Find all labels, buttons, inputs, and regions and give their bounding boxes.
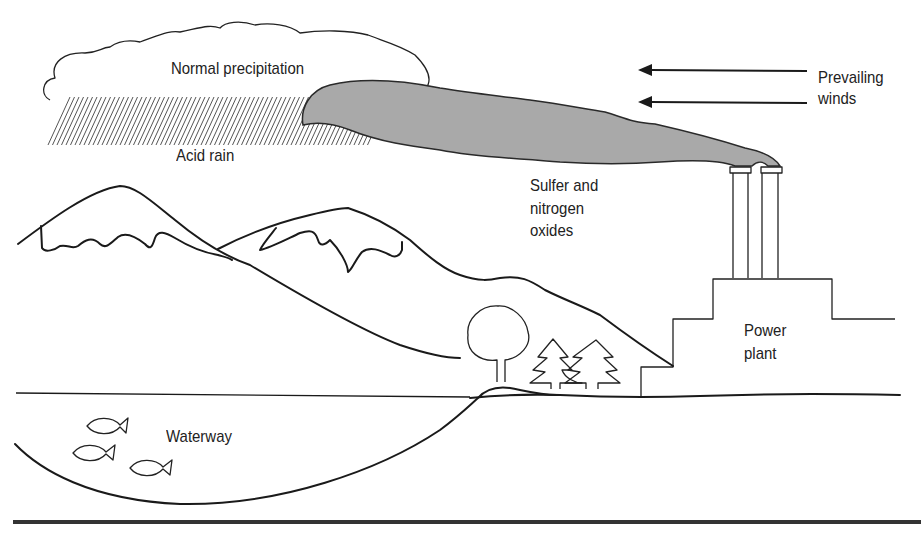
deciduous-tree-icon bbox=[468, 306, 529, 382]
power-plant-label-1: Power bbox=[744, 320, 786, 341]
normal-precipitation-label: Normal precipitation bbox=[171, 58, 304, 79]
acid-rain-diagram bbox=[0, 0, 921, 536]
oxides-label-2: nitrogen bbox=[530, 198, 584, 219]
wind-arrows-icon bbox=[638, 64, 807, 108]
mountain-right-snowcap bbox=[260, 228, 402, 272]
mountain-left-snowcap bbox=[41, 226, 232, 260]
oxides-label-3: oxides bbox=[530, 220, 573, 241]
power-plant-label-2: plant bbox=[744, 343, 776, 364]
prevailing-winds-label-2: winds bbox=[818, 88, 856, 109]
smoke-plume bbox=[302, 81, 780, 166]
prevailing-winds-label-1: Prevailing bbox=[818, 67, 884, 88]
oxides-label-1: Sulfer and bbox=[530, 175, 598, 196]
water-surface-line bbox=[16, 393, 470, 397]
ground-line bbox=[470, 394, 900, 398]
fish-icon bbox=[73, 418, 172, 476]
acid-rain-label: Acid rain bbox=[176, 145, 234, 166]
waterway-label: Waterway bbox=[166, 426, 232, 447]
mountain-left bbox=[18, 186, 460, 358]
conifer-trees-icon bbox=[530, 339, 620, 389]
smokestacks bbox=[730, 167, 782, 278]
